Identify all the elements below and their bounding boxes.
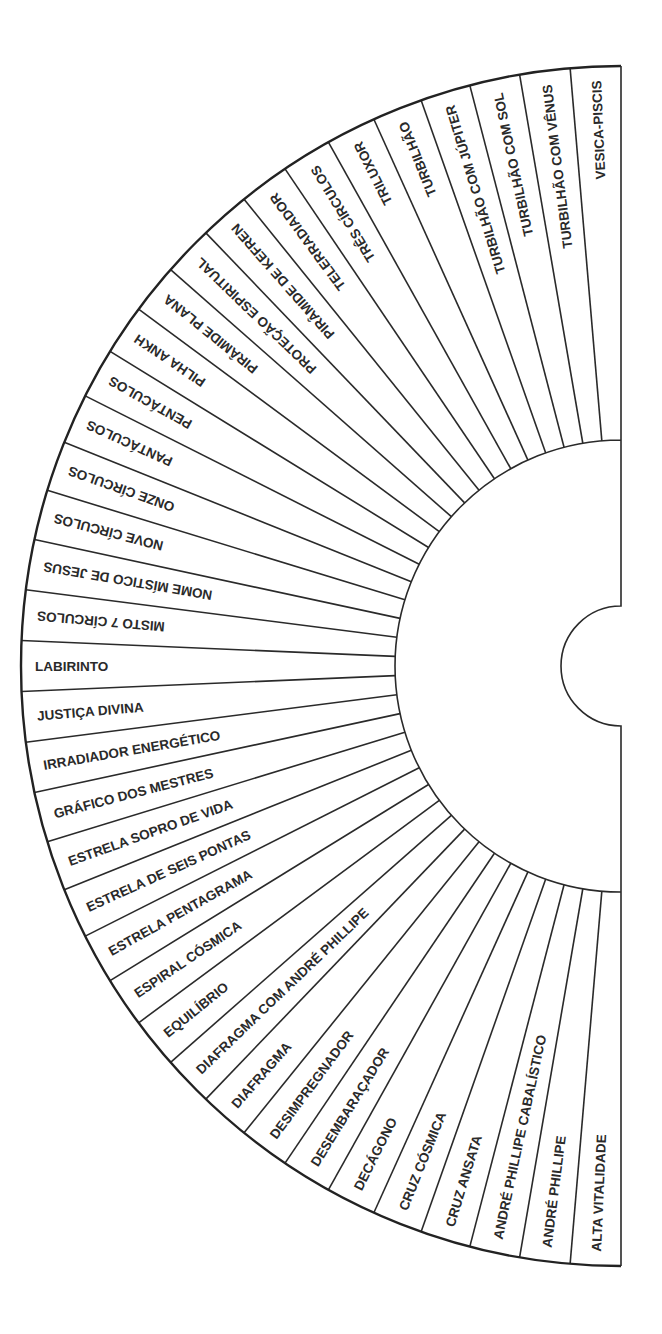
sector-divider: [22, 676, 396, 692]
sector-label: PANTÁCULOS: [84, 417, 175, 469]
sector-label: ANDRÉ PHILLIPE: [540, 1135, 569, 1249]
sector-divider: [374, 872, 528, 1213]
sector-label: LABIRINTO: [35, 659, 108, 674]
sector-label: ONZE CÍRCULOS: [66, 463, 176, 514]
sector-label: DIAFRAGMA: [229, 1039, 295, 1111]
sector-label: PENTÁCULOS: [106, 373, 195, 431]
sector-label: TURBILHÃO COM SOL: [491, 91, 536, 237]
sector-label: EQUILÍBRIO: [161, 979, 232, 1040]
sector-label: VESICA-PISCIS: [589, 80, 608, 180]
sector-label: IRRADIADOR ENERGÉTICO: [42, 728, 221, 773]
sector-divider: [421, 100, 546, 453]
sector-label: JUSTIÇA DIVINA: [37, 700, 145, 724]
sector-label: CRUZ CÓSMICA: [396, 1109, 449, 1212]
sector-divider: [22, 641, 396, 657]
sector-label: MISTO 7 CÍRCULOS: [37, 608, 166, 634]
inner-arc-with-notch: [395, 66, 621, 1266]
sector-label: PILHA ANKH: [132, 331, 209, 389]
sector-label: DECÁGONO: [351, 1115, 400, 1193]
sector-label: TURBILHÃO: [396, 119, 440, 198]
sector-label: TRILUXOR: [351, 139, 396, 208]
sector-labels: VESICA-PISCISTURBILHÃO COM VÊNUSTURBILHÃ…: [35, 80, 609, 1252]
sector-divider: [421, 879, 546, 1232]
sector-label: ALTA VITALIDADE: [589, 1134, 609, 1252]
radiesthesia-fan-chart: VESICA-PISCISTURBILHÃO COM VÊNUSTURBILHÃ…: [0, 0, 662, 1334]
sector-label: NOME MÍSTICO DE JESUS: [42, 559, 213, 603]
sector-label: PROTEÇÃO ESPIRITUAL: [193, 255, 319, 377]
sector-label: PIRÂMIDE DE KEFREN: [229, 221, 338, 342]
sector-divider: [374, 119, 528, 460]
